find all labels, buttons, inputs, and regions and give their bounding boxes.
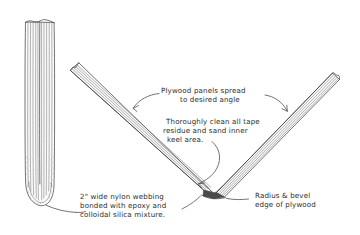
plywood-panels-leader-right <box>265 95 287 111</box>
annotation-radius-bevel: Radius & bevel edge of plywood <box>255 191 316 209</box>
nylon-webbing-line3: colloidal silica mixture. <box>80 210 165 219</box>
plywood-panels-line2: to desired angle <box>180 95 240 104</box>
clean-keel-line3: keel area. <box>167 135 203 144</box>
webbing-leader-left <box>47 206 77 213</box>
radius-bevel-line2: edge of plywood <box>255 200 316 209</box>
clean-keel-line1: Thoroughly clean all tape <box>165 117 260 126</box>
clean-keel-leader <box>199 142 220 184</box>
radius-bevel-leader <box>227 198 249 199</box>
clean-keel-line2: residue and sand inner <box>163 126 248 135</box>
right-panel-top-edge <box>40 20 54 23</box>
nylon-webbing-line1: 2" wide nylon webbing <box>80 192 164 201</box>
technical-illustration: Plywood panels spread to desired angle T… <box>0 0 360 235</box>
annotation-plywood-panels: Plywood panels spread to desired angle <box>161 86 246 104</box>
plywood-panels-leader-left <box>134 94 160 108</box>
plywood-panels-line1: Plywood panels spread <box>161 86 246 95</box>
nylon-webbing-line2: bonded with epoxy and <box>80 201 166 210</box>
closed-assembly-drawing <box>25 20 76 213</box>
annotation-nylon-webbing: 2" wide nylon webbing bonded with epoxy … <box>80 192 166 219</box>
annotation-clean-keel: Thoroughly clean all tape residue and sa… <box>163 117 260 144</box>
illustration-canvas: Plywood panels spread to desired angle T… <box>0 0 360 235</box>
radius-bevel-line1: Radius & bevel <box>255 191 310 200</box>
nylon-webbing-leader-right <box>182 196 201 209</box>
